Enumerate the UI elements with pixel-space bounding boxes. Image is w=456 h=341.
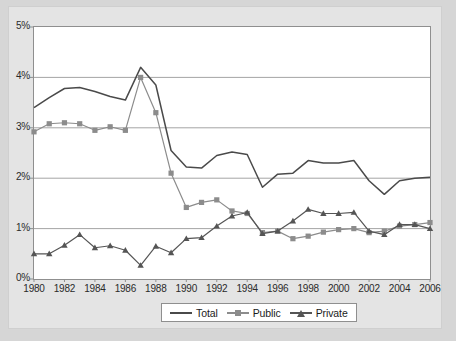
data-point-marker <box>92 128 97 133</box>
x-tick-label: 2004 <box>383 283 417 294</box>
chart-legend: Total Public Private <box>161 303 357 322</box>
data-point-marker <box>214 197 219 202</box>
y-tick-label: 5% <box>2 20 30 31</box>
series-private <box>31 206 433 268</box>
x-tick-label: 1984 <box>78 283 112 294</box>
data-point-marker <box>108 124 113 129</box>
data-point-marker <box>107 243 113 249</box>
data-point-marker <box>153 110 158 115</box>
triangle-marker-icon <box>297 310 305 317</box>
legend-label-private: Private <box>316 307 348 319</box>
y-tick-label: 0% <box>2 272 30 283</box>
legend-swatch-total <box>170 308 192 318</box>
data-point-marker <box>138 75 143 80</box>
data-point-marker <box>199 200 204 205</box>
y-tick-label: 3% <box>2 121 30 132</box>
data-point-marker <box>290 236 295 241</box>
y-tick-label: 2% <box>2 171 30 182</box>
data-point-marker <box>76 231 82 237</box>
data-series-layer <box>31 67 433 267</box>
x-tick-label: 1998 <box>291 283 325 294</box>
data-point-marker <box>321 230 326 235</box>
y-tick-marks <box>30 27 34 279</box>
data-point-marker <box>31 129 36 134</box>
x-tick-label: 1980 <box>17 283 51 294</box>
x-tick-marks <box>34 279 430 282</box>
legend-label-total: Total <box>196 307 218 319</box>
data-point-marker <box>61 242 67 248</box>
gridlines <box>34 77 430 228</box>
data-point-marker <box>427 220 432 225</box>
data-point-marker <box>47 121 52 126</box>
square-marker-icon <box>235 310 241 316</box>
data-point-marker <box>168 171 173 176</box>
data-point-marker <box>229 208 234 213</box>
data-point-marker <box>214 223 220 229</box>
data-point-marker <box>62 120 67 125</box>
data-point-marker <box>184 205 189 210</box>
legend-item-total: Total <box>170 307 218 319</box>
x-tick-label: 2000 <box>322 283 356 294</box>
data-point-marker <box>336 227 341 232</box>
x-tick-label: 1990 <box>169 283 203 294</box>
y-tick-label: 1% <box>2 222 30 233</box>
legend-swatch-private <box>290 308 312 318</box>
x-tick-label: 1992 <box>200 283 234 294</box>
chart-screenshot: 5%4%3%2%1%0% 198019821984198619881990199… <box>0 0 456 341</box>
data-point-marker <box>123 128 128 133</box>
data-point-marker <box>77 121 82 126</box>
x-tick-label: 1986 <box>108 283 142 294</box>
x-tick-label: 2006 <box>413 283 447 294</box>
data-point-marker <box>153 243 159 249</box>
legend-label-public: Public <box>253 307 281 319</box>
data-point-marker <box>306 234 311 239</box>
x-tick-label: 1988 <box>139 283 173 294</box>
legend-item-public: Public <box>227 307 281 319</box>
x-tick-label: 1994 <box>230 283 264 294</box>
data-point-marker <box>351 226 356 231</box>
legend-swatch-public <box>227 308 249 318</box>
legend-item-private: Private <box>290 307 348 319</box>
x-tick-label: 2002 <box>352 283 386 294</box>
x-tick-label: 1982 <box>47 283 81 294</box>
y-tick-label: 4% <box>2 70 30 81</box>
data-point-marker <box>305 206 311 212</box>
x-tick-label: 1996 <box>261 283 295 294</box>
